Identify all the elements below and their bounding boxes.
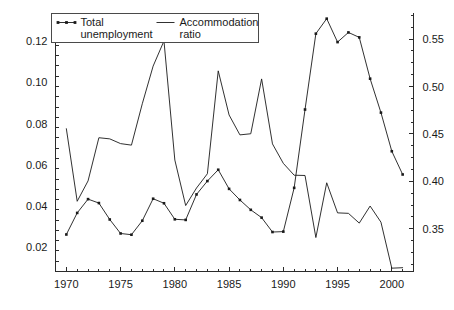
right-axis-tick-label: 0.40 xyxy=(423,175,444,187)
series-line-2 xyxy=(66,41,402,268)
legend-label-accommodation-line2: ratio xyxy=(180,28,201,40)
series-marker xyxy=(76,212,79,215)
series-marker xyxy=(347,31,350,34)
series-marker xyxy=(206,180,209,183)
series-marker xyxy=(195,193,198,196)
series-marker xyxy=(369,77,372,80)
series-marker xyxy=(65,233,68,236)
right-axis-tick-label: 0.50 xyxy=(423,81,444,93)
series-marker xyxy=(304,108,307,111)
chart-figure: 0.020.040.060.080.100.120.350.400.450.50… xyxy=(0,0,454,310)
series-marker xyxy=(130,233,133,236)
legend-label-unemployment-line1: Total xyxy=(81,16,104,28)
series-marker xyxy=(174,218,177,221)
legend-sample-marker xyxy=(74,21,77,24)
series-marker xyxy=(87,198,90,201)
series-marker xyxy=(119,232,122,235)
left-axis-tick-label: 0.08 xyxy=(26,118,47,130)
left-axis-tick-label: 0.06 xyxy=(26,159,47,171)
series-marker xyxy=(228,188,231,191)
series-marker xyxy=(391,150,394,153)
series-marker xyxy=(163,202,166,205)
series-marker xyxy=(325,17,328,20)
left-axis-tick-label: 0.04 xyxy=(26,200,47,212)
series-marker xyxy=(315,32,318,35)
right-axis-tick-label: 0.55 xyxy=(423,33,444,45)
series-marker xyxy=(282,230,285,233)
x-axis-tick-label: 2000 xyxy=(380,278,404,290)
series-marker xyxy=(239,199,242,202)
x-axis-tick-label: 1975 xyxy=(108,278,132,290)
x-axis-tick-label: 1995 xyxy=(325,278,349,290)
left-axis-tick-label: 0.12 xyxy=(26,35,47,47)
x-axis-tick-label: 1985 xyxy=(217,278,241,290)
series-marker xyxy=(401,173,404,176)
legend-sample-marker xyxy=(57,21,60,24)
line-chart: 0.020.040.060.080.100.120.350.400.450.50… xyxy=(0,0,454,310)
series-marker xyxy=(217,168,220,171)
series-marker xyxy=(108,218,111,221)
x-axis-tick-label: 1980 xyxy=(163,278,187,290)
series-marker xyxy=(336,41,339,44)
legend-sample-marker xyxy=(65,21,68,24)
legend-label-accommodation-line1: Accommodation xyxy=(180,16,259,28)
series-marker xyxy=(358,36,361,39)
right-axis-tick-label: 0.35 xyxy=(423,223,444,235)
x-axis-tick-label: 1990 xyxy=(271,278,295,290)
series-marker xyxy=(249,209,252,212)
series-marker xyxy=(380,111,383,114)
series-marker xyxy=(152,197,155,200)
right-axis-tick-label: 0.45 xyxy=(423,128,444,140)
series-marker xyxy=(141,219,144,222)
series-line-1 xyxy=(66,19,402,235)
series-marker xyxy=(293,187,296,190)
x-axis-tick-label: 1970 xyxy=(54,278,78,290)
series-marker xyxy=(260,216,263,219)
left-axis-tick-label: 0.10 xyxy=(26,76,47,88)
legend-label-unemployment-line2: unemployment xyxy=(81,28,153,40)
series-marker xyxy=(271,231,274,234)
series-marker xyxy=(184,219,187,222)
series-marker xyxy=(98,202,101,205)
left-axis-tick-label: 0.02 xyxy=(26,241,47,253)
